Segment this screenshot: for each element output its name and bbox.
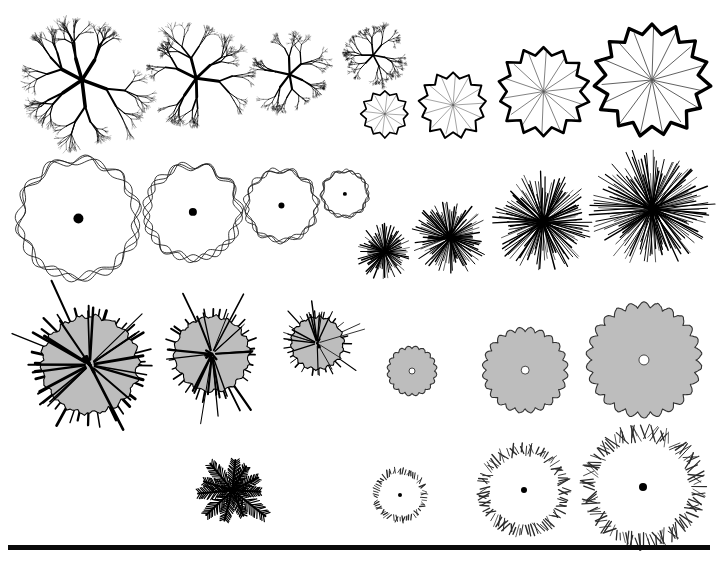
scalloped-spoke-xl — [587, 15, 717, 145]
starburst-md — [408, 196, 492, 280]
lobed-cloud-sm — [384, 343, 440, 399]
spiky-conifer-sm — [264, 290, 370, 396]
palm-single — [182, 440, 283, 541]
branching-deciduous-sm — [339, 21, 407, 89]
horizontal-rule — [8, 545, 710, 550]
lobed-cloud-md — [477, 322, 573, 418]
starburst-xl — [584, 141, 718, 277]
starburst-sm — [354, 221, 416, 283]
wavy-outline-sm — [318, 167, 372, 221]
hatched-ring-sm — [366, 461, 434, 529]
scalloped-spoke-sm — [358, 87, 412, 141]
scalloped-spoke-lg — [492, 40, 595, 143]
branching-deciduous-lg — [137, 19, 256, 138]
branching-deciduous-md — [244, 29, 335, 120]
lobed-cloud-lg — [579, 295, 709, 425]
tree-symbol-sheet — [0, 0, 718, 563]
scalloped-spoke-md — [415, 67, 491, 143]
starburst-lg — [488, 167, 598, 277]
hatched-ring-md — [469, 435, 579, 545]
hatched-ring-lg — [571, 415, 715, 559]
wavy-outline-lg — [138, 157, 248, 267]
wavy-outline-md — [240, 164, 323, 247]
branching-deciduous-xl — [9, 7, 155, 153]
